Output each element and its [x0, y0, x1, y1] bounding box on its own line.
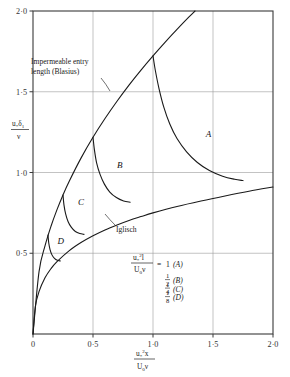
curve-label-b: B	[117, 160, 123, 170]
x-tick-label: 1·5	[208, 340, 219, 349]
x-tick-label: 0	[31, 340, 35, 349]
blasius-label-line1: Impermeable entry	[31, 57, 89, 66]
x-num-x: x	[145, 349, 149, 358]
frac-half-numerator: 1	[166, 272, 169, 279]
x-tick-label: 0·5	[88, 340, 99, 349]
equation-case-a: (A)	[173, 260, 183, 269]
curve-label-c: C	[78, 197, 85, 207]
blasius-label-line2: length (Blasius)	[31, 67, 80, 76]
y-tick-label: 0·5	[16, 249, 27, 258]
eq-den-nu: ν	[142, 265, 146, 274]
equation-case-d: (D)	[173, 293, 184, 302]
frac-eighth-numerator: 1	[166, 289, 169, 296]
y-tick-label: 1·0	[16, 169, 27, 178]
curve-label-d: D	[57, 236, 65, 246]
frac-quarter-numerator: 1	[166, 281, 169, 288]
equation-numerator: u*2l	[133, 253, 144, 263]
curve-label-a: A	[205, 129, 212, 139]
iglisch-label: Iglisch	[116, 225, 137, 234]
equation-equals: =	[157, 260, 161, 269]
equation-value-one: 1	[166, 260, 170, 269]
y-tick-label: 2·0	[16, 7, 27, 16]
chart-svg: 00·51·01·52·0 0·51·01·52·0 Impermeable e…	[0, 0, 290, 377]
x-tick-label: 1·0	[148, 340, 159, 349]
figure-container: 00·51·01·52·0 0·51·01·52·0 Impermeable e…	[0, 0, 290, 377]
eq-num-l: l	[142, 253, 144, 262]
x-tick-label: 2·0	[268, 340, 279, 349]
y-tick-label: 1·5	[16, 88, 27, 97]
